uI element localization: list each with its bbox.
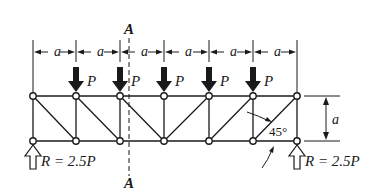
load-label: P	[86, 73, 96, 89]
height-label: a	[332, 112, 339, 127]
truss-diagram: a a a a a a A A a	[0, 0, 387, 192]
load-label: P	[130, 73, 140, 89]
panel-label: a	[230, 44, 237, 59]
panel-label: a	[185, 44, 192, 59]
truss-members	[33, 96, 297, 141]
truss-nodes	[30, 93, 300, 144]
section-label-top: A	[123, 21, 134, 37]
load-label: P	[263, 73, 273, 89]
down-arrow-icon	[68, 67, 84, 92]
panel-label: a	[274, 44, 281, 59]
load-arrows	[68, 67, 261, 92]
up-arrow-icon	[25, 145, 41, 169]
angle-label: 45°	[269, 124, 287, 139]
panel-label: a	[97, 44, 104, 59]
down-arrow-icon	[201, 67, 217, 92]
reaction-right-label: R = 2.5P	[304, 153, 360, 169]
down-arrow-icon	[245, 67, 261, 92]
down-arrow-icon	[156, 67, 172, 92]
down-arrow-icon	[112, 67, 128, 92]
up-arrow-icon	[289, 145, 305, 169]
load-label: P	[219, 73, 229, 89]
load-label: P	[174, 73, 184, 89]
section-label-bottom: A	[123, 175, 134, 191]
reaction-left-label: R = 2.5P	[40, 153, 96, 169]
panel-label: a	[141, 44, 148, 59]
panel-label: a	[54, 44, 61, 59]
